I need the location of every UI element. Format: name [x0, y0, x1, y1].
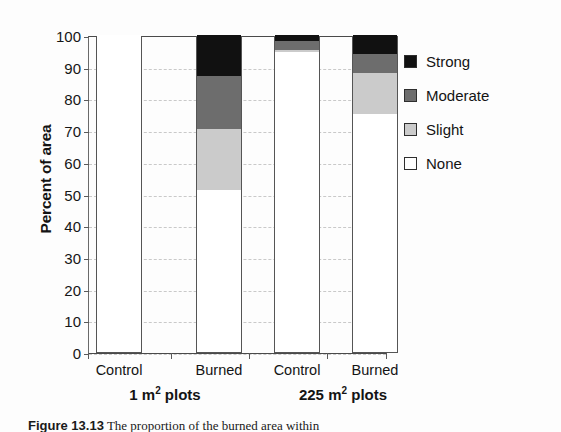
figure-container: Percent of area 1009080706050403020100 S…: [0, 0, 561, 432]
legend-swatch-slight-icon: [404, 123, 417, 136]
x-axis-label: Burned: [174, 362, 264, 378]
x-axis-tick-mark: [249, 353, 250, 359]
bar-segment-moderate: [275, 41, 319, 50]
y-axis-tick-label: 60: [29, 155, 89, 172]
stacked-bar[interactable]: [96, 36, 142, 353]
legend-label-strong: Strong: [426, 53, 470, 70]
bar-segment-moderate: [197, 76, 241, 128]
y-axis-tick-mark: [84, 291, 89, 292]
legend-item-strong[interactable]: Strong: [404, 44, 554, 78]
y-axis-tick-label: 40: [29, 218, 89, 235]
y-axis-tick-label: 50: [29, 187, 89, 204]
bar-segment-none: [197, 190, 241, 352]
legend-label-none: None: [426, 155, 462, 172]
legend-swatch-strong-icon: [404, 55, 417, 68]
y-axis-tick-mark: [84, 227, 89, 228]
x-axis-label: Control: [252, 362, 342, 378]
y-axis-tick-mark: [84, 259, 89, 260]
bar-segment-none: [97, 35, 141, 352]
y-axis-tick-label: 100: [29, 28, 89, 45]
legend-swatch-none-icon: [404, 157, 417, 170]
legend-item-moderate[interactable]: Moderate: [404, 78, 554, 112]
legend-item-none[interactable]: None: [404, 146, 554, 180]
bar-segment-slight: [353, 73, 397, 114]
x-axis-label: Control: [74, 362, 164, 378]
y-axis-tick-label: 90: [29, 60, 89, 77]
y-axis-tick-mark: [84, 196, 89, 197]
x-axis-tick-mark: [386, 353, 387, 359]
y-axis-tick-label: 20: [29, 282, 89, 299]
bar-segment-strong: [353, 35, 397, 54]
group-label: 225 m2 plots: [263, 385, 423, 403]
y-axis-tick-label: 10: [29, 313, 89, 330]
stacked-bar[interactable]: [352, 36, 398, 353]
bar-segment-none: [275, 52, 319, 352]
x-axis-tick-mark: [327, 353, 328, 359]
legend-label-moderate: Moderate: [426, 87, 489, 104]
bar-segment-strong: [275, 35, 319, 41]
legend-item-slight[interactable]: Slight: [404, 112, 554, 146]
caption-figure-number: Figure 13.13: [28, 418, 104, 432]
figure-caption: Figure 13.13 The proportion of the burne…: [28, 418, 538, 432]
bar-segment-strong: [197, 35, 241, 76]
legend-swatch-moderate-icon: [404, 89, 417, 102]
y-axis-tick-label: 30: [29, 250, 89, 267]
y-axis-tick-label: 0: [29, 345, 89, 362]
gridline: [89, 354, 386, 355]
bar-segment-none: [353, 114, 397, 352]
stacked-bar[interactable]: [274, 36, 320, 353]
stacked-bar[interactable]: [196, 36, 242, 353]
y-axis-tick-mark: [84, 164, 89, 165]
y-axis-tick-mark: [84, 100, 89, 101]
legend-label-slight: Slight: [426, 121, 464, 138]
y-axis-tick-mark: [84, 322, 89, 323]
y-axis-tick-label: 70: [29, 123, 89, 140]
bar-segment-slight: [275, 50, 319, 53]
legend: Strong Moderate Slight None: [404, 44, 554, 180]
bar-segment-moderate: [353, 54, 397, 73]
x-axis-tick-mark: [88, 353, 89, 359]
x-axis-label: Burned: [330, 362, 420, 378]
y-axis-tick-mark: [84, 37, 89, 38]
y-axis-tick-mark: [84, 69, 89, 70]
y-axis-tick-mark: [84, 132, 89, 133]
bar-segment-slight: [197, 129, 241, 191]
caption-text: The proportion of the burned area within: [107, 418, 319, 432]
x-axis-tick-mark: [171, 353, 172, 359]
y-axis-tick-label: 80: [29, 91, 89, 108]
group-label: 1 m2 plots: [85, 385, 245, 403]
x-axis-line: [88, 353, 386, 354]
